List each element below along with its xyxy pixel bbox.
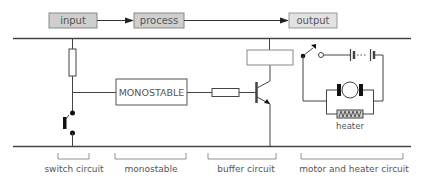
relay-contact-open — [319, 53, 324, 58]
system-diagram: input process output MONOSTABLE — [0, 0, 421, 181]
motor-heater-circuit — [301, 44, 383, 118]
base-resistor — [212, 89, 239, 97]
section-brackets — [58, 153, 403, 159]
heater-label: heater — [336, 121, 364, 131]
process-label: process — [140, 15, 178, 26]
input-label: input — [60, 15, 86, 26]
section-label-monostable: monostable — [125, 164, 178, 174]
switch-circuit — [63, 39, 116, 147]
arrowhead-icon — [125, 18, 134, 24]
flow-diagram: input process output — [49, 13, 337, 28]
motor-icon — [342, 82, 358, 98]
output-label: output — [297, 15, 330, 26]
switch-contact — [70, 111, 75, 116]
section-label-switch: switch circuit — [44, 164, 104, 174]
resistor — [69, 49, 76, 76]
section-label-motor-heater: motor and heater circuit — [299, 164, 409, 174]
relay-coil — [247, 50, 293, 65]
buffer-circuit — [187, 39, 293, 147]
section-label-buffer: buffer circuit — [217, 164, 275, 174]
monostable-label: MONOSTABLE — [119, 87, 185, 98]
arrowhead-icon — [280, 18, 289, 24]
